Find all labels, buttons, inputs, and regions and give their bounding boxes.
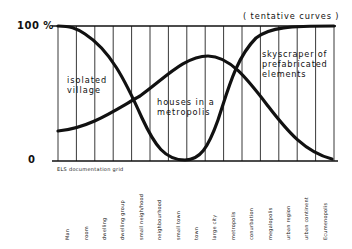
category-label: small neigh/hood <box>138 194 144 240</box>
annotation-isolated-village: isolated village <box>67 75 107 95</box>
category-label: large city <box>211 215 217 240</box>
annotation-skyscraper: skyscraper of prefabricated elements <box>262 49 328 79</box>
category-label: town <box>193 227 199 240</box>
category-label: megalopolis <box>267 208 273 240</box>
chart: 100 % 0 ( tentative curves ) isolated vi… <box>0 0 352 249</box>
category-label: metropolis <box>230 211 236 240</box>
category-label: neighbourhood <box>156 200 162 240</box>
sky-label-line3: elements <box>262 69 328 79</box>
sky-label-line2: prefabricated <box>262 59 328 69</box>
category-label: Man <box>64 229 70 240</box>
category-label: Ecumenopolis <box>322 203 328 240</box>
category-label: urban region <box>285 206 291 240</box>
category-label: urban continent <box>303 197 309 240</box>
category-label: dwelling group <box>119 200 125 240</box>
annotation-houses-in-metropolis: houses in a metropolis <box>157 97 215 117</box>
tentative-curves-note: ( tentative curves ) <box>243 11 339 21</box>
village-label-line1: isolated <box>67 75 107 85</box>
village-label-line2: village <box>67 85 107 95</box>
category-label: room <box>83 226 89 240</box>
y-tick-0: 0 <box>28 154 35 165</box>
metro-label-line1: houses in a <box>157 97 215 107</box>
grid-caption: ELS documentation grid <box>57 166 124 172</box>
category-label: conurbation <box>248 208 254 240</box>
y-tick-100: 100 % <box>17 20 54 31</box>
sky-label-line1: skyscraper of <box>262 49 328 59</box>
category-label: dwelling <box>101 218 107 240</box>
category-label: small town <box>175 211 181 240</box>
metro-label-line2: metropolis <box>157 107 215 117</box>
